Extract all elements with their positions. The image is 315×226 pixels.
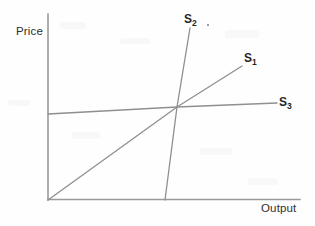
y-axis-label: Price — [16, 25, 43, 37]
supply-curve-s3 — [48, 103, 277, 114]
curve-label-s3-subscript: 3 — [287, 101, 292, 111]
curve-label-s1-subscript: 1 — [252, 57, 257, 67]
x-axis-label: Output — [261, 202, 296, 214]
supply-curve-s2 — [165, 28, 190, 200]
curve-label-s2-subscript: 2 — [192, 18, 197, 28]
supply-curves-diagram: Price Output S2 S1 S3 — [0, 0, 315, 226]
curve-label-s3-base: S — [279, 95, 287, 109]
supply-curve-s1 — [48, 66, 242, 200]
plot-area — [0, 0, 315, 226]
curve-label-s1: S1 — [244, 51, 257, 65]
curve-label-s1-base: S — [244, 51, 252, 65]
curve-label-s2-base: S — [184, 12, 192, 26]
stray-dot-mark — [207, 24, 209, 26]
curve-label-s3: S3 — [279, 95, 292, 109]
curve-label-s2: S2 — [184, 12, 197, 26]
